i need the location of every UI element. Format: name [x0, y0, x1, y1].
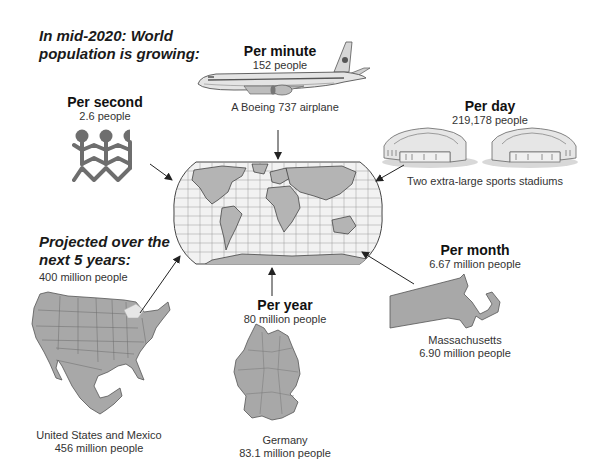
- arrows-layer: [0, 0, 600, 476]
- arrow-per-second: [150, 164, 172, 180]
- arrow-projected: [140, 256, 180, 313]
- arrow-per-month: [362, 252, 414, 284]
- arrow-per-day: [376, 165, 404, 181]
